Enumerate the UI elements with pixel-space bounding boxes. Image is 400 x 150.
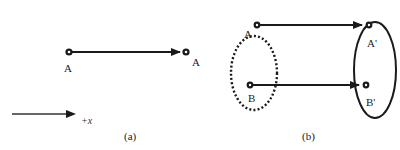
translation-diagram: A A +x (a) A B A' B' (b) [0, 0, 400, 150]
x-axis-label: +x [81, 115, 93, 126]
point-a-start [65, 48, 72, 55]
panel-b: A B A' B' (b) [231, 22, 396, 143]
label-a-prime: A' [367, 37, 377, 49]
label-a-end: A [192, 56, 200, 68]
label-b-prime: B' [366, 96, 375, 108]
caption-a: (a) [124, 130, 137, 143]
point-a [254, 22, 261, 29]
label-b: B [248, 92, 255, 104]
panel-a: A A +x (a) [12, 48, 200, 143]
point-b-prime [363, 82, 370, 89]
caption-b: (b) [302, 130, 315, 143]
x-axis-arrowhead-icon [66, 110, 76, 118]
point-b [247, 82, 254, 89]
label-a: A [244, 28, 252, 40]
label-a-start: A [64, 62, 72, 74]
point-a-end [182, 48, 189, 55]
point-a-prime [366, 22, 373, 29]
